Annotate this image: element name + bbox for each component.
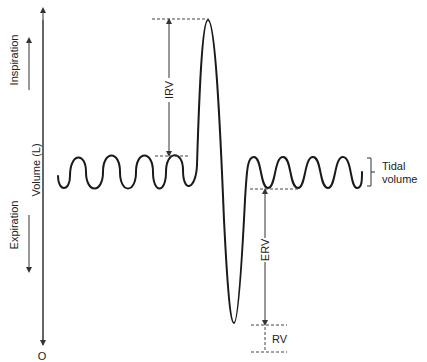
expiration-label: Expiration [8, 201, 20, 250]
irv-label: IRV [163, 80, 175, 99]
origin-label: O [38, 350, 47, 362]
erv-label: ERV [259, 238, 271, 261]
y-axis-label: Volume (L) [30, 143, 42, 196]
tidal-volume-bracket [367, 158, 375, 186]
inspiration-label: Inspiration [8, 35, 20, 86]
volume-curve [58, 20, 362, 323]
tidal-volume-label-line2: volume [382, 173, 417, 185]
spirogram-diagram: O Volume (L) Inspiration Expiration IRV … [0, 0, 427, 362]
tidal-volume-label-line1: Tidal [382, 160, 405, 172]
rv-label: RV [272, 333, 288, 345]
